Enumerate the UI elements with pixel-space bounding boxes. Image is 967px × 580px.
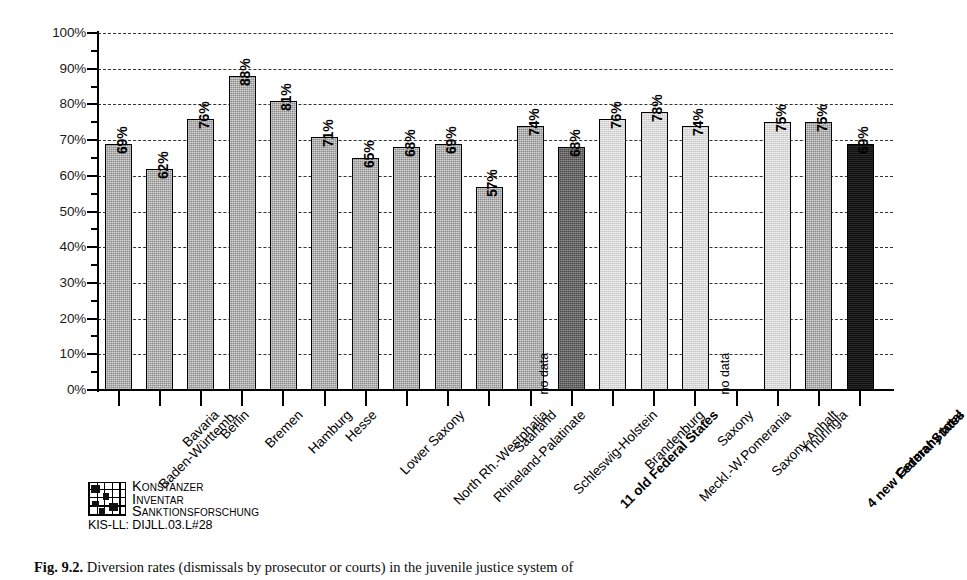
figure-caption-text: Diversion rates (dismissals by prosecuto… xyxy=(87,559,573,575)
bar xyxy=(229,76,256,390)
bar-value-label: 68% xyxy=(568,130,582,157)
x-axis-tick xyxy=(530,391,532,406)
bar xyxy=(435,144,462,390)
plot-area: 69%62%76%88%81%71%65%68%69%57%74%68%76%7… xyxy=(98,33,893,390)
bar-value-label: 62% xyxy=(156,151,170,178)
bar-value-label: 74% xyxy=(691,108,705,135)
x-axis-label: Lower Saxony xyxy=(397,408,467,478)
y-axis-tick-label: 20% xyxy=(28,312,86,326)
bar xyxy=(641,112,668,390)
bar-value-label: 76% xyxy=(609,101,623,128)
bar xyxy=(517,126,544,390)
y-axis-tick-label: 50% xyxy=(28,205,86,219)
x-axis-tick xyxy=(653,391,655,406)
x-axis-tick xyxy=(488,391,490,406)
x-axis-tick xyxy=(818,391,820,406)
x-axis-tick xyxy=(736,391,738,406)
kis-grid-mark-icon xyxy=(88,482,126,516)
x-axis-tick xyxy=(118,391,120,406)
bar xyxy=(847,144,874,390)
x-axis-tick xyxy=(159,391,161,406)
x-axis-label: Germany total xyxy=(893,408,966,481)
y-axis-tick-label: 0% xyxy=(28,383,86,397)
bar xyxy=(270,101,297,390)
bar xyxy=(311,137,338,390)
x-axis-tick xyxy=(282,391,284,406)
kis-line-3: Sanktionsforschung xyxy=(132,505,259,518)
kis-wordmark: Konstanzer Inventar Sanktionsforschung xyxy=(132,480,259,518)
x-axis-tick xyxy=(571,391,573,406)
x-axis-tick xyxy=(365,391,367,406)
y-axis-tick-label: 60% xyxy=(28,169,86,183)
bar-value-label: 75% xyxy=(774,105,788,132)
no-data-label: no data xyxy=(538,353,551,395)
bar xyxy=(105,144,132,390)
bar-value-label: 69% xyxy=(115,126,129,153)
bar-value-label: 74% xyxy=(527,108,541,135)
x-axis-tick xyxy=(324,391,326,406)
y-axis-labels: 100%90%80%70%60%50%40%30%20%10%0% xyxy=(20,0,86,400)
bar xyxy=(146,169,173,390)
y-axis-tick-label: 40% xyxy=(28,240,86,254)
x-axis-label: Bremen xyxy=(263,408,306,451)
bar-value-label: 65% xyxy=(362,141,376,168)
kis-reference-code: KIS-LL: DIJLL.03.L#28 xyxy=(88,519,212,532)
bar-value-label: 69% xyxy=(856,126,870,153)
y-axis-tick-label: 70% xyxy=(28,133,86,147)
figure-caption: Fig. 9.2. Diversion rates (dismissals by… xyxy=(34,559,874,576)
x-axis-tick xyxy=(694,391,696,406)
bar xyxy=(558,147,585,390)
x-axis-tick xyxy=(406,391,408,406)
y-axis-tick-label: 10% xyxy=(28,347,86,361)
bar xyxy=(599,119,626,390)
bar xyxy=(805,122,832,390)
bar xyxy=(764,122,791,390)
bar-value-label: 81% xyxy=(279,83,293,110)
x-axis-tick xyxy=(200,391,202,406)
x-axis-tick xyxy=(777,391,779,406)
bar-value-label: 88% xyxy=(238,58,252,85)
y-axis-tick-label: 30% xyxy=(28,276,86,290)
x-axis-tick xyxy=(241,391,243,406)
bar-value-label: 76% xyxy=(197,101,211,128)
bar-value-label: 78% xyxy=(650,94,664,121)
kis-logo: Konstanzer Inventar Sanktionsforschung K… xyxy=(88,481,318,539)
gridline xyxy=(98,33,893,34)
bar xyxy=(476,187,503,390)
bar-value-label: 75% xyxy=(815,105,829,132)
bar-value-label: 68% xyxy=(403,130,417,157)
bar-value-label: 71% xyxy=(321,119,335,146)
bar xyxy=(393,147,420,390)
bar xyxy=(682,126,709,390)
bar-value-label: 57% xyxy=(485,169,499,196)
y-axis-tick-label: 90% xyxy=(28,62,86,76)
gridline xyxy=(98,69,893,70)
x-axis-tick xyxy=(447,391,449,406)
bar-value-label: 69% xyxy=(444,126,458,153)
bar xyxy=(187,119,214,390)
x-axis-tick xyxy=(612,391,614,406)
no-data-label: no data xyxy=(718,353,731,395)
y-axis-tick-label: 80% xyxy=(28,97,86,111)
y-axis-tick-label: 100% xyxy=(28,26,86,40)
bar xyxy=(352,158,379,390)
figure-caption-label: Fig. 9.2. xyxy=(34,559,83,575)
x-axis-tick xyxy=(859,391,861,406)
